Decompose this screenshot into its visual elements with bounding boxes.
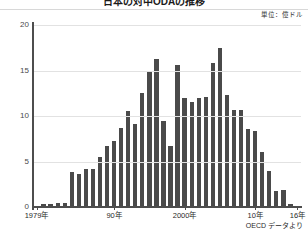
bar [281, 190, 285, 207]
bar [168, 146, 172, 207]
x-axis-tick [255, 207, 256, 210]
bar [260, 152, 264, 208]
y-axis-tick-label: 10 [3, 112, 29, 120]
bar [126, 111, 130, 207]
bar [84, 169, 88, 207]
bar [225, 95, 229, 207]
bar [267, 171, 271, 207]
bar [161, 121, 165, 207]
plot-area [33, 25, 301, 207]
bar [274, 191, 278, 207]
x-axis-tick [114, 207, 115, 210]
x-axis-line [32, 206, 302, 208]
y-axis-line [32, 22, 34, 210]
gridline-y [33, 25, 301, 26]
y-axis-tick-label: 0 [3, 203, 29, 211]
x-axis-tick-label: 90年 [106, 211, 121, 220]
bar [119, 128, 123, 207]
bar [232, 110, 236, 207]
bar [218, 48, 222, 207]
x-axis-tick [37, 207, 38, 210]
y-axis-tick-label: 15 [3, 67, 29, 75]
bar [175, 65, 179, 207]
bar [77, 174, 81, 207]
bar [112, 141, 116, 207]
gridline-y [33, 116, 301, 117]
bar [154, 59, 158, 207]
chart-figure: 日本の対中ODAの推移 単位：億ドル OECD データより 0510152019… [0, 0, 308, 232]
x-axis-tick-label: 10年 [247, 211, 262, 220]
bar [211, 63, 215, 207]
source-note: OECD データより [246, 221, 303, 230]
bar [190, 102, 194, 207]
unit-label: 単位：億ドル [261, 11, 303, 19]
bar [70, 172, 74, 207]
x-axis-tick-label: 16年 [290, 211, 305, 220]
bar [98, 157, 102, 207]
bar [147, 71, 151, 208]
bar [105, 146, 109, 207]
y-axis-tick-label: 5 [3, 158, 29, 166]
y-axis-tick-label: 20 [3, 21, 29, 29]
bar [246, 129, 250, 207]
x-axis-tick [185, 207, 186, 210]
x-axis-tick-label: 1979年 [25, 211, 49, 220]
bar [253, 131, 257, 207]
bar [239, 110, 243, 207]
title-divider [0, 9, 308, 10]
bar [91, 169, 95, 207]
bar [197, 98, 201, 207]
gridline-y [33, 71, 301, 72]
bar [204, 97, 208, 207]
bar [182, 98, 186, 207]
bar [133, 124, 137, 207]
bar [140, 93, 144, 207]
x-axis-tick [297, 207, 298, 210]
gridline-y [33, 162, 301, 163]
page-title: 日本の対中ODAの推移 [0, 0, 308, 7]
x-axis-tick-label: 2000年 [173, 211, 197, 220]
